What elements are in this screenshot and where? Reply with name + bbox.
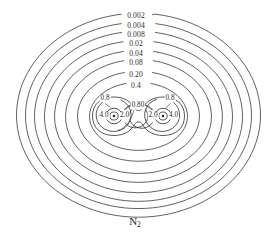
left-contour-label-4.0: 4.0 <box>99 112 110 119</box>
right-contour-label-4.0: 4.0 <box>168 112 179 119</box>
contour-label-0.008: 0.008 <box>126 31 147 39</box>
right-nucleus-dot <box>162 115 164 117</box>
molecule-title-element: N <box>129 215 137 227</box>
molecule-title: N2 <box>129 216 141 227</box>
left-contour-label-0.8: 0.8 <box>100 95 111 102</box>
contour-plot-figure: 0.002 0.004 0.008 0.02 0.04 0.08 0.20 0.… <box>0 0 270 242</box>
contour-label-0.02: 0.02 <box>128 40 145 48</box>
left-contour-label-2.0: 2.0 <box>119 112 130 119</box>
contour-label-0.4: 0.4 <box>130 82 143 90</box>
contour-label-0.20: 0.20 <box>128 71 145 79</box>
contour-label-0.002: 0.002 <box>126 12 147 20</box>
right-contour-label-2.0: 2.0 <box>148 112 159 119</box>
right-contour-label-0.8: 0.8 <box>165 95 176 102</box>
left-nucleus-dot <box>113 115 115 117</box>
contour-label-0.08: 0.08 <box>128 59 145 67</box>
molecule-title-subscript: 2 <box>137 220 141 229</box>
center-contour-label-0.80: 0.80 <box>131 102 145 109</box>
contour-label-0.004: 0.004 <box>126 22 147 30</box>
leader-line-right-label <box>166 104 171 108</box>
leader-line-left-label <box>105 104 111 108</box>
contour-label-0.04: 0.04 <box>128 50 145 58</box>
